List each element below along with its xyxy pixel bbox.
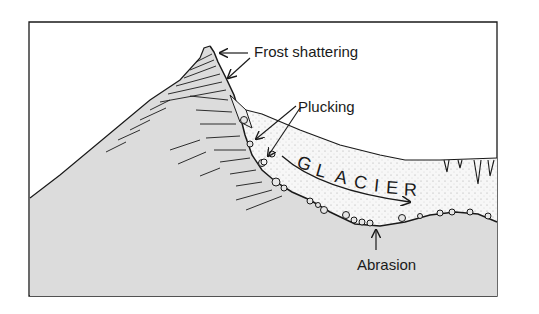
label-abrasion: Abrasion (357, 256, 416, 273)
label-frost-shattering: Frost shattering (254, 43, 358, 60)
frost-shattering-arrow-2 (228, 58, 250, 78)
label-plucking: Plucking (298, 98, 355, 115)
